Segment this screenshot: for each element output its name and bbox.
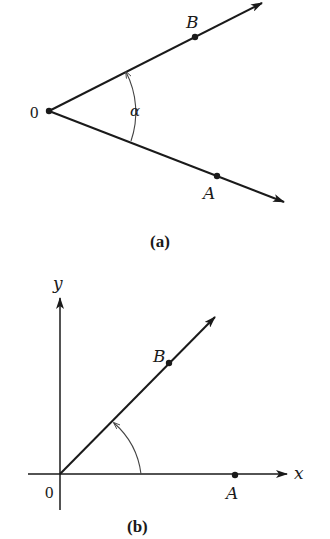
ray-ob [49,3,262,111]
x-axis-label: x [294,463,304,483]
angle-label: α [130,102,140,120]
point-a-dot [232,472,238,478]
vertex-label: 0 [30,103,39,122]
caption-a: (a) [150,232,170,251]
origin-label: 0 [45,483,54,502]
figure-canvas: 0 B A α (a) y x 0 B A (b) [0,0,330,539]
angle-arc [114,423,141,474]
point-a-label: A [224,483,238,503]
point-b-dot [166,360,172,366]
point-a-label: A [201,183,215,203]
caption-b: (b) [127,517,148,536]
point-b-label: B [152,346,166,366]
point-a-dot [214,173,220,179]
vertex-dot [46,108,52,114]
figure-b: y x 0 B A (b) [28,273,304,536]
figure-a: 0 B A α (a) [30,3,284,251]
ray-oa [49,111,284,202]
point-b-dot [192,34,198,40]
y-axis-label: y [52,273,63,293]
ray-ob [60,317,215,474]
point-b-label: B [185,12,199,32]
